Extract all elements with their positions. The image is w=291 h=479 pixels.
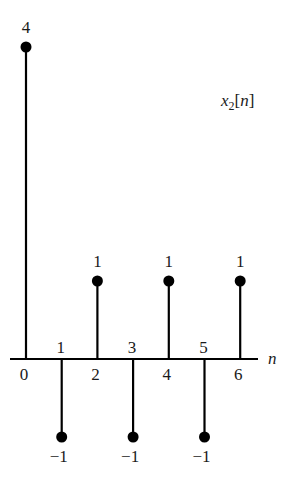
stem-marker — [235, 276, 246, 287]
value-label: −1 — [192, 447, 210, 466]
tick-label: 0 — [20, 365, 29, 384]
tick-label: 5 — [199, 338, 208, 357]
chart-title: x2[n] — [220, 91, 254, 113]
stem-plot: 40−1112−1314−1516 n x2[n] — [0, 0, 291, 479]
tick-label: 6 — [234, 365, 243, 384]
tick-label: 2 — [91, 365, 100, 384]
value-label: 1 — [93, 252, 102, 271]
stems-group — [21, 42, 246, 443]
value-label: 1 — [236, 252, 245, 271]
title-arg: [n] — [235, 91, 255, 110]
stem-marker — [56, 432, 67, 443]
stem-marker — [199, 432, 210, 443]
stem-marker — [128, 432, 139, 443]
stem-marker — [21, 42, 32, 53]
stem-marker — [163, 276, 174, 287]
tick-label: 3 — [128, 338, 137, 357]
value-label: 1 — [165, 252, 174, 271]
tick-label: 1 — [56, 338, 65, 357]
tick-label: 4 — [163, 365, 172, 384]
value-label: −1 — [121, 447, 139, 466]
stem-marker — [92, 276, 103, 287]
value-label: −1 — [50, 447, 68, 466]
value-label: 4 — [22, 18, 31, 37]
x-axis-label: n — [268, 349, 277, 368]
